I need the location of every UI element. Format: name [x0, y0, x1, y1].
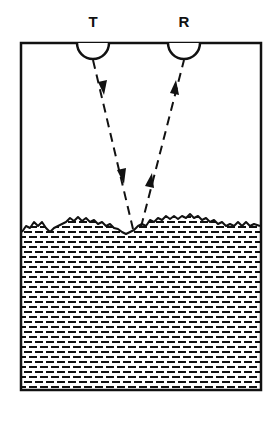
- diagram-canvas: [0, 0, 273, 422]
- transmitter-label: T: [88, 14, 97, 29]
- reflected-ray: [141, 60, 184, 227]
- arrow-up-icon: [145, 173, 154, 188]
- transmitter-icon: [77, 43, 109, 59]
- arrow-down-icon: [98, 80, 107, 95]
- arrow-up-icon: [170, 80, 179, 95]
- receiver-icon: [168, 43, 200, 59]
- liquid-fill: [0, 200, 273, 400]
- incident-ray: [93, 60, 133, 229]
- receiver-label: R: [179, 14, 190, 29]
- ultrasonic-level-diagram: T R: [0, 0, 273, 422]
